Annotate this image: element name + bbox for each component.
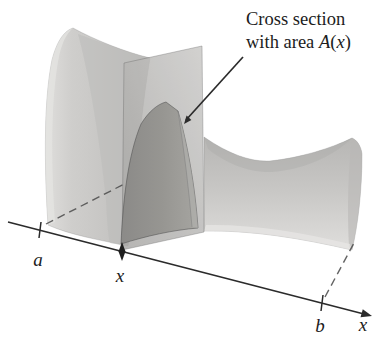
- tick-b: [321, 295, 323, 311]
- area-function-symbol: A: [317, 32, 331, 52]
- solid-right-section: [204, 137, 362, 250]
- diagram-canvas: Cross section with area A(x) a x b x: [0, 0, 381, 338]
- volume-cross-section-figure: Cross section with area A(x) a x b x: [0, 0, 381, 338]
- label-x-position: x: [115, 265, 125, 286]
- tick-a: [39, 222, 41, 238]
- label-b: b: [315, 315, 325, 336]
- label-a: a: [33, 249, 43, 270]
- hidden-edge-right-dashed: [325, 243, 354, 297]
- annotation-line2: with area A(x): [246, 32, 351, 53]
- annotation-line1: Cross section: [246, 9, 345, 29]
- label-x-axis: x: [358, 314, 368, 335]
